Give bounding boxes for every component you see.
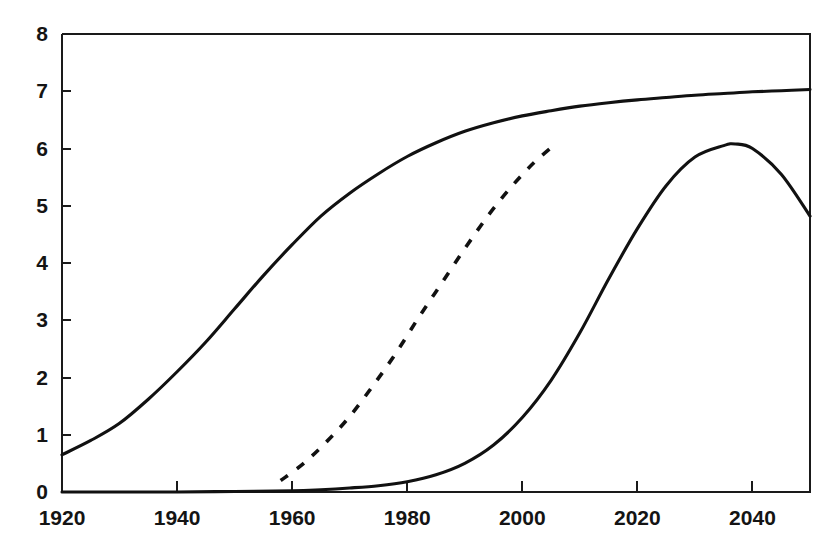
y-axis-tick-labels: 012345678 [36, 22, 48, 503]
chart-figure: 012345678 1920194019601980200020202040 [0, 0, 840, 556]
line-chart-canvas: 012345678 1920194019601980200020202040 [0, 0, 840, 556]
y-tick-label: 7 [36, 79, 48, 102]
x-tick-label: 2040 [729, 506, 776, 529]
y-tick-label: 3 [36, 308, 48, 331]
x-tick-label: 2000 [499, 506, 546, 529]
x-tick-label: 1980 [384, 506, 431, 529]
y-tick-label: 6 [36, 137, 48, 160]
y-tick-label: 1 [36, 423, 48, 446]
y-tick-label: 8 [36, 22, 48, 45]
x-tick-label: 1920 [39, 506, 86, 529]
x-tick-label: 2020 [614, 506, 661, 529]
y-tick-label: 2 [36, 366, 48, 389]
y-tick-label: 4 [36, 251, 48, 274]
y-tick-label: 0 [36, 480, 48, 503]
chart-background [0, 0, 840, 556]
x-tick-label: 1940 [154, 506, 201, 529]
y-tick-label: 5 [36, 194, 48, 217]
x-tick-label: 1960 [269, 506, 316, 529]
